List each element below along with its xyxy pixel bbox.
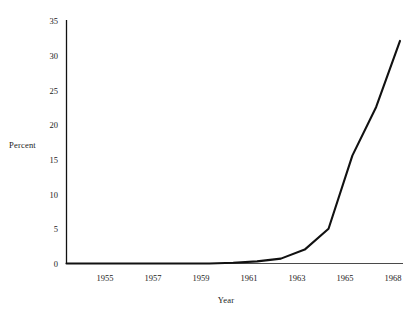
x-tick-label-1961: 1961	[229, 273, 269, 283]
x-tick-label-1957: 1957	[133, 273, 173, 283]
plot-area	[0, 0, 415, 318]
x-axis-title: Year	[196, 295, 256, 305]
x-tick-label-1959: 1959	[181, 273, 221, 283]
data-series-line	[67, 41, 401, 264]
line-chart: Percent 35 30 25 20 15 10 5 0 1955 1957 …	[0, 0, 415, 318]
x-tick-label-1965: 1965	[325, 273, 365, 283]
x-tick-label-1968: 1968	[373, 273, 413, 283]
x-tick-label-1963: 1963	[277, 273, 317, 283]
x-tick-label-1955: 1955	[85, 273, 125, 283]
